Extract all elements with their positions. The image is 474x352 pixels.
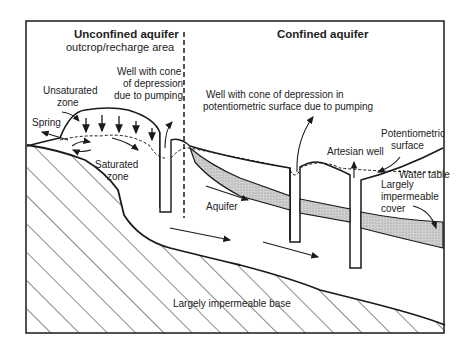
aquifer-label: Aquifer xyxy=(206,201,238,212)
artesian-well-label: Artesian well xyxy=(327,146,384,157)
confined-title: Confined aquifer xyxy=(277,28,369,40)
unsaturated-label-1: Unsaturated xyxy=(43,85,97,96)
unconfined-well xyxy=(160,133,190,212)
confined-well-label-2: potentiometric surface due to pumping xyxy=(203,101,373,112)
unconfined-subtitle: outcrop/recharge area xyxy=(66,41,175,53)
potentiometric-label-2: surface xyxy=(391,140,424,151)
well-cone-label-3: due to pumping xyxy=(114,90,183,101)
impermeable-cover xyxy=(190,148,290,210)
cover-label-2: impermeable xyxy=(381,191,439,202)
saturated-label-1: Saturated xyxy=(95,159,138,170)
spring-label: Spring xyxy=(32,117,61,128)
well-cone-label-1: Well with cone xyxy=(117,66,182,77)
unsaturated-label-2: zone xyxy=(57,97,79,108)
aquifer-diagram: Unconfined aquifer outcrop/recharge area… xyxy=(0,0,474,352)
unconfined-title: Unconfined aquifer xyxy=(74,28,179,40)
base-label: Largely impermeable base xyxy=(173,298,291,309)
cover-label-1: Largely xyxy=(381,179,414,190)
well-cone-label-2: of depression xyxy=(123,78,183,89)
potentiometric-label-1: Potentiometric xyxy=(381,128,445,139)
cover-label-3: cover xyxy=(381,203,406,214)
saturated-label-2: zone xyxy=(107,171,129,182)
confined-well-label-1: Well with cone of depression in xyxy=(206,89,344,100)
